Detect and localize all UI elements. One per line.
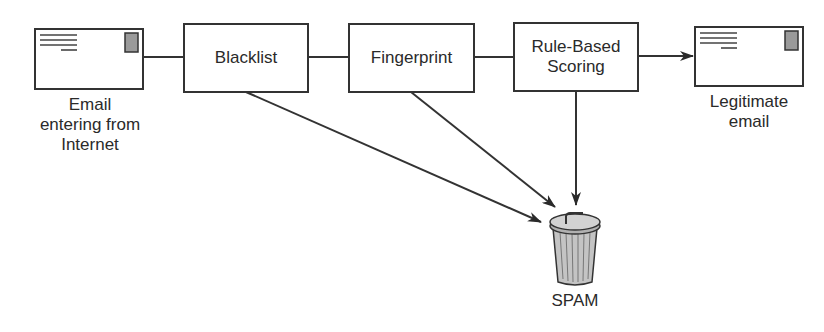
source-envelope-icon bbox=[34, 28, 144, 90]
edge-blacklist-spam-arrow bbox=[246, 92, 541, 222]
trash-can-icon bbox=[550, 213, 600, 285]
stage-blacklist: Blacklist bbox=[183, 23, 309, 93]
source-label: Email entering from Internet bbox=[20, 95, 160, 155]
edge-fingerprint-spam-arrow bbox=[411, 92, 555, 207]
stage-fingerprint: Fingerprint bbox=[348, 23, 475, 93]
legitimate-label: Legitimate email bbox=[690, 92, 808, 132]
legitimate-envelope-icon bbox=[694, 26, 804, 87]
stage-rule-based-scoring: Rule-Based Scoring bbox=[513, 22, 639, 92]
spam-label: SPAM bbox=[535, 291, 615, 311]
